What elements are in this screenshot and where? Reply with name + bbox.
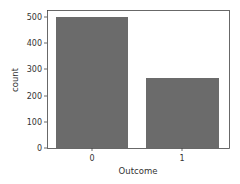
ytick-300: 300 <box>27 65 42 74</box>
x-axis: 0 1 <box>89 148 184 163</box>
y-axis: 0 100 200 300 400 500 <box>27 13 47 153</box>
ytick-0: 0 <box>37 144 42 153</box>
xtick-1: 1 <box>179 154 184 163</box>
xtick-0: 0 <box>89 154 94 163</box>
ytick-100: 100 <box>27 118 42 127</box>
y-axis-label: count <box>10 67 20 92</box>
bar-chart: 0 100 200 300 400 500 0 1 Outcome count <box>0 0 240 184</box>
ytick-500: 500 <box>27 13 42 22</box>
ytick-400: 400 <box>27 39 42 48</box>
ytick-200: 200 <box>27 92 42 101</box>
bar-outcome-0 <box>56 17 128 148</box>
bar-outcome-1 <box>146 78 219 148</box>
x-axis-label: Outcome <box>119 166 158 176</box>
